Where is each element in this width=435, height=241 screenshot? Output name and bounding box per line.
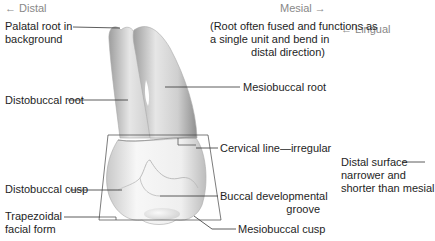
label-mesiobuccal-cusp: Mesiobuccal cusp [238, 223, 325, 236]
label-trapezoidal-form: Trapezoidal facial form [5, 210, 62, 236]
label-root-note: (Root often fused and functions as a sin… [210, 20, 325, 59]
crown [107, 138, 206, 225]
roots [109, 27, 197, 138]
label-palatal-root: Palatal root in background [5, 20, 72, 46]
label-distobuccal-root: Distobuccal root [5, 94, 84, 107]
label-cervical-line: Cervical line—irregular [220, 142, 331, 155]
direction-mesial: Mesial → [280, 2, 326, 15]
label-mesiobuccal-root: Mesiobuccal root [243, 81, 326, 94]
direction-distal: ← Distal [5, 2, 47, 15]
label-distobuccal-cusp: Distobuccal cusp [5, 183, 88, 196]
label-distal-surface: Distal surface narrower and shorter than… [341, 156, 435, 195]
label-buccal-groove: Buccal developmental groove [220, 190, 320, 216]
